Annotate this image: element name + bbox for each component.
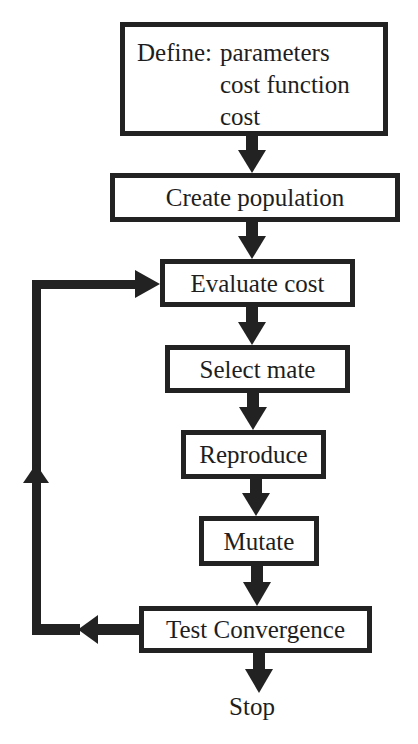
step-create-population: Create population: [110, 173, 400, 222]
step-label: Test Convergence: [166, 617, 345, 642]
step-reproduce: Reproduce: [181, 430, 326, 479]
step-test-convergence: Test Convergence: [139, 606, 372, 653]
loop-back-arrow: [23, 270, 160, 644]
arrow-select-to-reproduce: [239, 391, 267, 430]
step-label: Reproduce: [199, 442, 307, 467]
step-label: Create population: [166, 185, 344, 210]
arrow-define-to-create: [238, 134, 266, 173]
define-label: Define:: [137, 39, 212, 66]
terminal-stop: Stop: [212, 694, 292, 719]
step-label: Select mate: [200, 357, 316, 382]
step-select-mate: Select mate: [165, 345, 350, 393]
step-mutate: Mutate: [199, 516, 319, 566]
arrow-mutate-to-test: [243, 564, 271, 606]
step-evaluate-cost: Evaluate cost: [160, 259, 355, 307]
arrow-test-to-stop: [245, 651, 273, 693]
step-label: Mutate: [224, 529, 295, 554]
arrow-reproduce-to-mutate: [242, 477, 270, 516]
define-item-cost-function: cost function: [220, 71, 350, 98]
define-box: Define: parameters cost function cost: [120, 22, 388, 136]
step-label: Evaluate cost: [191, 271, 325, 296]
define-item-cost: cost: [220, 103, 350, 130]
arrow-create-to-evaluate: [238, 220, 266, 259]
define-item-parameters: parameters: [220, 39, 350, 66]
arrow-evaluate-to-select: [238, 305, 266, 345]
